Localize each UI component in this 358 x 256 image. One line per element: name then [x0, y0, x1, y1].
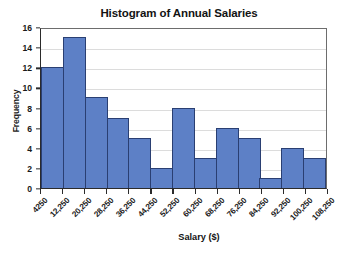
- bar-series: [41, 29, 326, 188]
- histogram-chart: Histogram of Annual Salaries Frequency 0…: [0, 0, 358, 256]
- x-tick-mark: [172, 189, 173, 194]
- x-tick-label: 12,250: [48, 196, 71, 219]
- y-tick-label: 12: [22, 63, 32, 73]
- y-axis-title: Frequency: [11, 71, 21, 151]
- x-tick-label: 68,250: [203, 196, 226, 219]
- x-tick-label: 52,250: [159, 196, 182, 219]
- x-tick-mark: [62, 189, 63, 194]
- x-tick-label: 100,250: [288, 196, 314, 222]
- x-tick-mark: [128, 189, 129, 194]
- y-tick-label: 2: [27, 164, 32, 174]
- y-tick-label: 4: [27, 144, 32, 154]
- histogram-bar: [281, 148, 304, 188]
- x-tick-label: 108,250: [310, 196, 336, 222]
- x-axis: 425012,25020,25028,25036,25044,25052,250…: [40, 189, 327, 235]
- histogram-bar: [63, 37, 86, 188]
- y-tick-label: 0: [27, 184, 32, 194]
- histogram-bar: [238, 138, 261, 188]
- x-tick-mark: [40, 189, 41, 194]
- y-tick-label: 8: [27, 104, 32, 114]
- x-axis-title: Salary ($): [40, 232, 358, 242]
- x-tick-mark: [195, 189, 196, 194]
- x-tick-label: 36,250: [115, 196, 138, 219]
- x-tick-mark: [150, 189, 151, 194]
- chart-title: Histogram of Annual Salaries: [0, 7, 358, 19]
- histogram-bar: [150, 168, 173, 188]
- histogram-bar: [85, 97, 108, 188]
- histogram-bar: [259, 178, 282, 188]
- x-tick-mark: [84, 189, 85, 194]
- x-tick-mark: [239, 189, 240, 194]
- y-tick-label: 16: [22, 23, 32, 33]
- histogram-bar: [128, 138, 151, 188]
- x-tick-label: 4250: [31, 196, 50, 215]
- x-tick-mark: [305, 189, 306, 194]
- y-tick-label: 10: [22, 83, 32, 93]
- x-tick-mark: [261, 189, 262, 194]
- histogram-bar: [194, 158, 217, 188]
- x-tick-label: 28,250: [93, 196, 116, 219]
- histogram-bar: [216, 128, 239, 188]
- x-tick-label: 76,250: [225, 196, 248, 219]
- y-tick-label: 6: [27, 124, 32, 134]
- y-axis: Frequency 0246810121416: [0, 28, 40, 189]
- x-tick-label: 44,250: [137, 196, 160, 219]
- x-tick-mark: [327, 189, 328, 194]
- x-tick-label: 20,250: [70, 196, 93, 219]
- histogram-bar: [172, 108, 195, 189]
- x-tick-mark: [106, 189, 107, 194]
- x-tick-label: 60,250: [181, 196, 204, 219]
- y-tick-label: 14: [22, 43, 32, 53]
- histogram-bar: [41, 67, 64, 188]
- plot-area: [40, 28, 327, 189]
- x-tick-label: 84,250: [247, 196, 270, 219]
- x-tick-mark: [217, 189, 218, 194]
- histogram-bar: [303, 158, 326, 188]
- histogram-bar: [107, 118, 130, 188]
- x-tick-mark: [283, 189, 284, 194]
